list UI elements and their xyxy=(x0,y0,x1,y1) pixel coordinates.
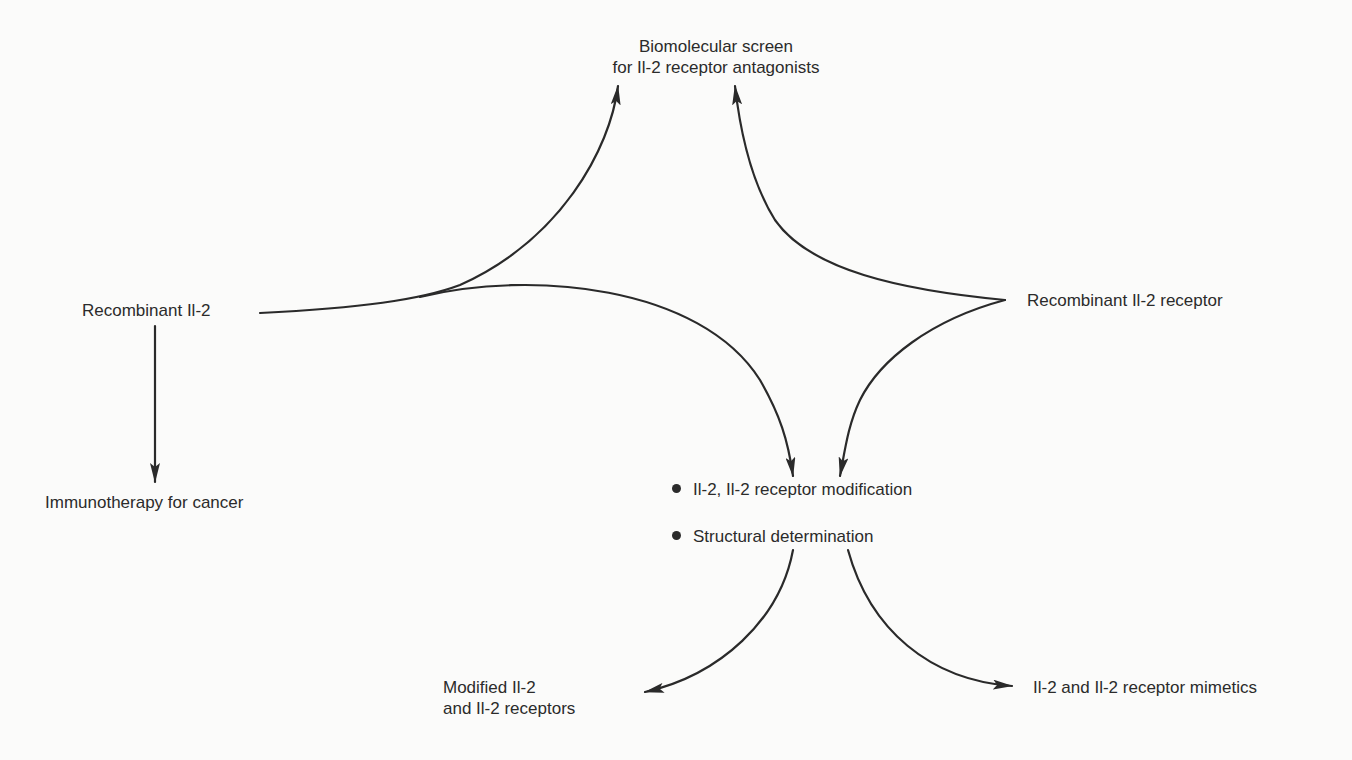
arrow-receptor-to-modification xyxy=(840,300,1005,476)
node-recombinant-il2-receptor: Recombinant Il-2 receptor xyxy=(1027,290,1223,311)
arrow-il2-to-screen xyxy=(260,86,618,313)
node-immunotherapy: Immunotherapy for cancer xyxy=(45,492,243,513)
node-biomolecular-screen: Biomolecular screen for Il-2 receptor an… xyxy=(556,36,876,78)
hub-item-structural-label: Structural determination xyxy=(693,527,873,546)
arrow-il2-to-modification xyxy=(420,285,793,476)
node-immunotherapy-label: Immunotherapy for cancer xyxy=(45,493,243,512)
bullet-dot-icon xyxy=(672,531,681,540)
hub-item-modification: Il-2, Il-2 receptor modification xyxy=(672,479,912,500)
bullet-dot-icon xyxy=(672,484,681,493)
node-recombinant-il2-label: Recombinant Il-2 xyxy=(82,301,211,320)
node-biomolecular-screen-line2: for Il-2 receptor antagonists xyxy=(556,57,876,78)
node-biomolecular-screen-line1: Biomolecular screen xyxy=(556,36,876,57)
arrow-hub-to-modified xyxy=(645,550,793,692)
diagram-arrows xyxy=(0,0,1352,760)
node-modified-il2-line2: and Il-2 receptors xyxy=(443,698,575,719)
hub-item-modification-label: Il-2, Il-2 receptor modification xyxy=(693,480,912,499)
node-recombinant-il2-receptor-label: Recombinant Il-2 receptor xyxy=(1027,291,1223,310)
hub-item-structural: Structural determination xyxy=(672,526,873,547)
node-modified-il2: Modified Il-2 and Il-2 receptors xyxy=(443,677,575,719)
arrow-receptor-to-screen xyxy=(735,86,1005,300)
node-modified-il2-line1: Modified Il-2 xyxy=(443,677,575,698)
node-mimetics: Il-2 and Il-2 receptor mimetics xyxy=(1033,677,1257,698)
arrow-hub-to-mimetics xyxy=(848,550,1012,686)
node-mimetics-label: Il-2 and Il-2 receptor mimetics xyxy=(1033,678,1257,697)
node-recombinant-il2: Recombinant Il-2 xyxy=(82,300,211,321)
